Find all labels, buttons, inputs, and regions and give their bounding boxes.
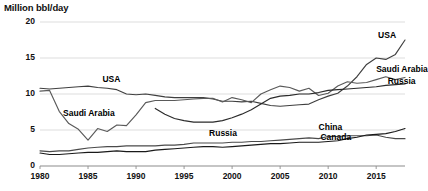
series-line-usa (40, 40, 405, 106)
series-label-saudi-arabia: Saudi Arabia (376, 64, 428, 74)
gridlines (40, 22, 405, 166)
x-tick-label: 2015 (359, 171, 393, 181)
x-tick-label: 1980 (23, 171, 57, 181)
series-label-saudi-arabia: Saudi Arabia (63, 108, 115, 118)
x-tick-label: 1985 (71, 171, 105, 181)
x-tick-label: 1995 (167, 171, 201, 181)
y-tick-label: 0 (13, 160, 35, 170)
y-tick-label: 5 (13, 124, 35, 134)
x-tick-label: 1990 (119, 171, 153, 181)
series-label-canada: Canada (320, 132, 351, 142)
x-tick-label: 2010 (311, 171, 345, 181)
y-tick-label: 15 (13, 52, 35, 62)
y-tick-label: 10 (13, 88, 35, 98)
x-tick-label: 2005 (263, 171, 297, 181)
series-label-russia: Russia (209, 128, 237, 138)
series-label-china: China (319, 122, 343, 132)
y-tick-label: 20 (13, 16, 35, 26)
x-tick-label: 2000 (215, 171, 249, 181)
series-line-russia (155, 84, 405, 122)
series-label-usa: USA (102, 74, 120, 84)
series-label-usa: USA (378, 30, 396, 40)
series-label-russia: Russia (388, 76, 416, 86)
